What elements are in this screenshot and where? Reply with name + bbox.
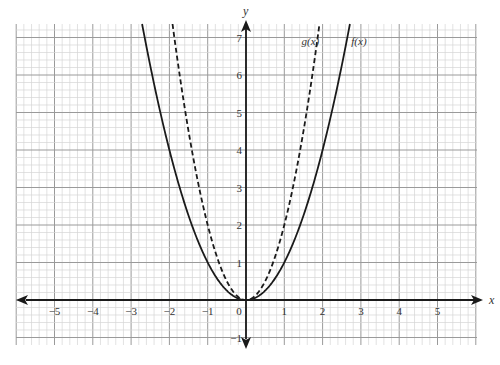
y-tick-label: 6 — [237, 69, 243, 81]
x-tick-label: 4 — [396, 305, 402, 317]
x-tick-label: 5 — [435, 305, 441, 317]
x-tick-label: −5 — [49, 305, 61, 317]
y-tick-label: 4 — [237, 144, 243, 156]
graph-figure: −5−4−3−2−1012345−11234567 x y g(x) f(x) — [0, 0, 500, 365]
axes — [16, 20, 483, 349]
x-tick-label: −3 — [125, 305, 137, 317]
y-tick-label: −1 — [230, 332, 242, 344]
x-tick-label: 0 — [236, 305, 242, 317]
x-tick-label: −1 — [202, 305, 214, 317]
x-tick-label: −2 — [164, 305, 176, 317]
f-curve-label: f(x) — [351, 35, 367, 48]
x-tick-label: 3 — [358, 305, 364, 317]
x-tick-label: 2 — [320, 305, 326, 317]
y-tick-label: 1 — [237, 257, 243, 269]
y-tick-label: 5 — [237, 107, 243, 119]
y-axis-label: y — [242, 4, 249, 18]
y-tick-label: 3 — [237, 182, 243, 194]
y-tick-label: 2 — [237, 219, 243, 231]
g-curve-label: g(x) — [302, 35, 320, 48]
x-tick-label: −4 — [87, 305, 99, 317]
x-tick-label: 1 — [282, 305, 288, 317]
x-axis-label: x — [488, 293, 495, 307]
y-tick-label: 7 — [237, 32, 243, 44]
